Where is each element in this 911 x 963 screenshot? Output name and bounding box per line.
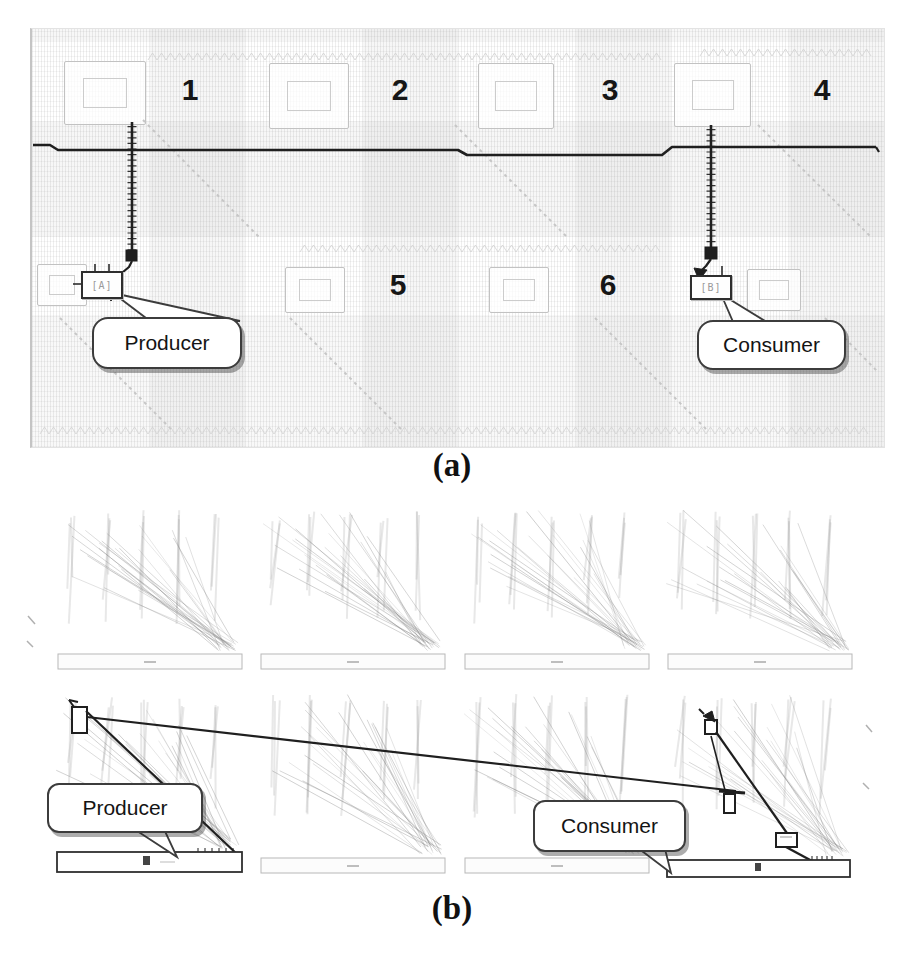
figure-container: 1 2 3 4 5 6 [A] [B] Producer Consumer Pr… <box>0 0 911 963</box>
faint-logic-block <box>674 63 751 127</box>
producer-callout-a: Producer <box>92 317 242 369</box>
region-number-2: 2 <box>381 74 419 106</box>
region-number-6: 6 <box>589 269 627 301</box>
producer-callout-b: Producer <box>47 783 203 833</box>
consumer-block-b: [B] <box>690 275 732 300</box>
faint-logic-block <box>489 267 549 313</box>
faint-logic-block <box>285 267 345 313</box>
region-number-3: 3 <box>591 74 629 106</box>
faint-logic-block <box>64 61 146 125</box>
consumer-callout-a: Consumer <box>697 320 846 370</box>
faint-logic-block <box>269 63 349 129</box>
region-number-1: 1 <box>171 74 209 106</box>
subfigure-tag-a: (a) <box>392 447 512 484</box>
subfigure-tag-b: (b) <box>392 890 512 927</box>
faint-logic-block <box>37 264 87 306</box>
panel-a-fpga-grid <box>30 28 885 448</box>
region-number-4: 4 <box>803 74 841 106</box>
faint-logic-block <box>747 269 801 311</box>
producer-block-a: [A] <box>81 271 123 299</box>
faint-logic-block <box>478 63 554 129</box>
consumer-callout-b: Consumer <box>533 800 686 852</box>
region-number-5: 5 <box>379 269 417 301</box>
